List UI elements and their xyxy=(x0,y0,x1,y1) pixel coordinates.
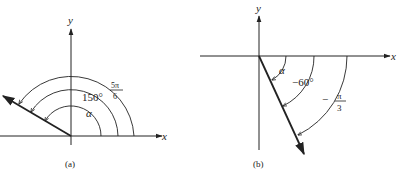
radians-num-a: 5π xyxy=(111,81,119,90)
panel-b: x y α −60° − π 3 (b) xyxy=(200,2,396,169)
degrees-label-b: −60° xyxy=(292,76,314,88)
terminal-ray-a xyxy=(3,96,71,136)
panel-a: x y α 150° 5π 6 (a) xyxy=(0,14,167,169)
arc-alpha-a xyxy=(45,106,101,136)
arc-150-a xyxy=(31,90,118,136)
y-axis-label-a: y xyxy=(67,14,73,26)
radians-den-a: 6 xyxy=(113,92,117,101)
y-axis-label-b: y xyxy=(255,2,261,14)
alpha-label-b: α xyxy=(279,64,285,76)
caption-a: (a) xyxy=(65,159,75,169)
caption-b: (b) xyxy=(253,159,264,169)
degrees-label-a: 150° xyxy=(82,91,103,103)
x-axis-label-a: x xyxy=(161,130,167,142)
radians-den-b: 3 xyxy=(337,103,342,113)
angle-diagram: x y α 150° 5π 6 (a) x y α −60° − xyxy=(0,0,399,177)
x-axis-label-b: x xyxy=(390,50,396,62)
radians-sign-b: − xyxy=(322,93,328,105)
radians-num-b: π xyxy=(337,91,342,101)
alpha-label-a: α xyxy=(86,107,92,119)
